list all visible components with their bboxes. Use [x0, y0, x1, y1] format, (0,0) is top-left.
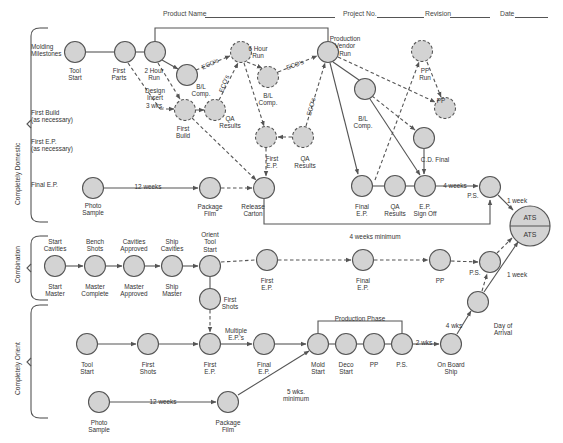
milestone-node-mold-start[interactable] — [308, 334, 329, 355]
node-label: PP — [370, 361, 379, 368]
milestone-node-final-ep-comb[interactable] — [353, 250, 374, 271]
edge-label: Production Phase — [335, 315, 385, 322]
milestone-node-first-ep-dom[interactable] — [256, 127, 277, 148]
node-label: On Board Ship — [437, 361, 464, 376]
node-label: QA Results — [294, 155, 315, 170]
node-label: Deco Start — [339, 361, 354, 376]
milestone-node-qa-results-3[interactable] — [385, 176, 406, 197]
node-label: Final E.P. — [356, 277, 370, 292]
section-label: Completely Domestic — [14, 143, 21, 205]
node-label: B/L Comp. — [192, 83, 211, 98]
header-field-input[interactable] — [377, 17, 424, 18]
milestone-node-tool-start[interactable] — [65, 42, 86, 63]
diagram-edges: ATSATS — [0, 0, 563, 443]
header-field-label: Project No. — [343, 10, 377, 17]
node-label: Master Approved — [120, 283, 147, 298]
section-label: Completely Orient — [14, 342, 21, 395]
node-label: First E.P. — [261, 277, 273, 292]
node-label: Release Carton — [241, 203, 264, 218]
milestone-node-pp-cd[interactable] — [414, 128, 435, 149]
milestone-node-ps-or[interactable] — [392, 334, 413, 355]
node-label: Photo Sample — [88, 419, 110, 434]
node-label: P.S. — [467, 192, 478, 199]
edge-label: Multiple E.P.'s — [225, 327, 247, 342]
milestone-node-pp-or[interactable] — [364, 334, 385, 355]
edge-label: 4 weeks minimum — [349, 233, 400, 240]
node-label: C.D. Final — [421, 156, 449, 163]
milestone-node-pp-comb[interactable] — [430, 250, 451, 271]
milestone-node-release-carton[interactable] — [254, 178, 275, 199]
milestone-node-ps-dom[interactable] — [480, 177, 501, 198]
node-label: Ship Master — [162, 283, 182, 298]
ats-bottom-label: ATS — [523, 231, 536, 238]
node-label: QA Results — [384, 203, 405, 218]
edge-label: 12 weeks — [135, 183, 162, 190]
node-label: Mold Start — [311, 361, 325, 376]
header-field-label: Revision — [425, 10, 451, 17]
node-label: Start Master — [45, 283, 65, 298]
node-label: E.P. Sign Off — [414, 203, 437, 218]
edge-label: 12 weeks — [150, 398, 177, 405]
milestone-node-photo-sample-2[interactable] — [89, 392, 110, 413]
node-label: First Build — [176, 125, 190, 140]
milestone-node-ep-sign-off[interactable] — [415, 176, 436, 197]
node-top-label: Bench Shots — [86, 238, 104, 253]
node-label: P.S. — [469, 269, 480, 276]
node-label: 6 Hour Run — [248, 45, 267, 60]
node-top-label: Start Cavities — [44, 238, 67, 253]
node-label: Tool Start — [80, 361, 94, 376]
edge-label: 4 weeks — [443, 182, 466, 189]
milestone-node-bl-comp-3[interactable] — [355, 79, 376, 100]
milestone-node-two-hour-run[interactable] — [145, 42, 166, 63]
node-label: First E.P. — [204, 361, 216, 376]
milestone-node-qa-results-2[interactable] — [293, 127, 314, 148]
milestone-node-final-ep-or[interactable] — [254, 334, 275, 355]
node-label: Day of Arrival — [494, 322, 512, 337]
node-label: PP Run — [419, 67, 431, 82]
edge-label: 2 wks — [416, 339, 432, 346]
header-field-input[interactable] — [450, 17, 490, 18]
node-label: First E.P. — [266, 155, 278, 170]
milestone-node-day-of-arrival[interactable] — [468, 292, 489, 313]
node-top-label: Cavities Approved — [120, 238, 147, 253]
row-label: First Build (as necessary) — [31, 109, 73, 124]
milestone-node-pp-run[interactable] — [412, 41, 433, 62]
milestone-node-orient-tool-start[interactable] — [200, 256, 221, 277]
header-field-input[interactable] — [205, 17, 335, 18]
edge-label: Design Insert 3 wks. — [145, 87, 165, 109]
milestone-node-tool-start-or[interactable] — [77, 334, 98, 355]
milestone-node-bench-shots[interactable] — [85, 256, 106, 277]
node-label: Master Complete — [81, 283, 108, 298]
milestone-node-start-cavities[interactable] — [45, 256, 66, 277]
node-label: First Shots — [140, 361, 156, 376]
milestone-node-package-film-1[interactable] — [200, 178, 221, 199]
milestone-node-ps-comb[interactable] — [480, 252, 501, 273]
milestone-node-first-parts[interactable] — [115, 42, 136, 63]
milestone-node-on-board-ship[interactable] — [441, 334, 462, 355]
milestone-node-first-shots-or[interactable] — [138, 334, 159, 355]
node-label: Package Film — [198, 203, 223, 218]
milestone-node-first-ep-comb[interactable] — [257, 250, 278, 271]
milestone-node-first-shots-comb[interactable] — [200, 289, 221, 310]
milestone-node-first-build[interactable] — [175, 100, 196, 121]
row-label: Molding Milestones — [31, 43, 62, 58]
node-label: Tool Start — [68, 67, 82, 82]
milestone-node-deco-start[interactable] — [336, 334, 357, 355]
milestone-node-photo-sample-1[interactable] — [83, 178, 104, 199]
header-field-input[interactable] — [515, 17, 548, 18]
node-label: B/L Comp. — [259, 92, 278, 107]
milestone-node-final-ep-dom[interactable] — [352, 176, 373, 197]
node-label: First Parts — [112, 67, 127, 82]
milestone-node-cavities-approved[interactable] — [124, 256, 145, 277]
node-label: Photo Sample — [82, 202, 104, 217]
node-top-label: Ship Cavities — [161, 238, 184, 253]
milestone-node-bl-comp-2[interactable] — [258, 67, 279, 88]
milestone-node-ship-cavities[interactable] — [162, 256, 183, 277]
node-label: First Shots — [222, 296, 238, 311]
milestone-node-package-film-2[interactable] — [218, 392, 239, 413]
edge-label: 1 week — [507, 197, 527, 204]
node-label: Final E.P. — [257, 361, 271, 376]
node-label: Package Film — [216, 419, 241, 434]
milestone-node-first-ep-or[interactable] — [200, 334, 221, 355]
edge-label: 4 wks — [446, 322, 462, 329]
